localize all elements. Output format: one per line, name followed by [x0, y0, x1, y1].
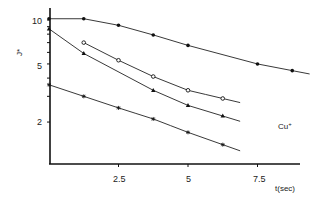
marker-star-icon — [47, 83, 51, 87]
marker-filled-circle-icon — [151, 33, 155, 37]
marker-open-circle-icon — [221, 97, 225, 101]
y-axis-label: J* — [15, 49, 24, 56]
marker-open-circle-icon — [186, 88, 190, 92]
marker-star-icon — [151, 117, 155, 121]
marker-filled-circle-icon — [117, 23, 121, 27]
axes — [49, 8, 300, 164]
marker-filled-circle-icon — [47, 17, 51, 21]
marker-star-icon — [82, 94, 86, 98]
marker-star-icon — [221, 143, 225, 147]
series-line-filled-circle — [49, 19, 310, 74]
marker-star-icon — [117, 106, 121, 110]
x-tick-label-5: 5 — [186, 174, 191, 184]
marker-open-circle-icon — [117, 58, 121, 62]
series-line-star — [49, 85, 240, 151]
y-tick-label-5: 5 — [37, 61, 42, 71]
marker-filled-circle-icon — [256, 62, 260, 66]
y-tick-label-2: 2 — [37, 117, 42, 127]
x-tick-label-7.5: 7.5 — [253, 174, 266, 184]
marker-filled-circle-icon — [82, 17, 86, 21]
marker-open-circle-icon — [82, 41, 86, 45]
marker-open-circle-icon — [151, 75, 155, 79]
marker-triangle-icon — [82, 51, 86, 55]
x-tick-label-2.5: 2.5 — [113, 174, 126, 184]
annotation-cu-plus: Cu+ — [278, 121, 292, 131]
marker-filled-circle-icon — [186, 44, 190, 48]
chart: 10 5 2 2.5 5 7.5 t(sec) J* Cu+ — [0, 0, 316, 201]
series-line-triangle — [49, 29, 240, 121]
y-tick-label-10: 10 — [32, 16, 42, 26]
marker-star-icon — [186, 130, 190, 134]
series-group — [47, 17, 310, 151]
x-axis-label: t(sec) — [275, 184, 295, 193]
marker-filled-circle-icon — [290, 69, 294, 73]
